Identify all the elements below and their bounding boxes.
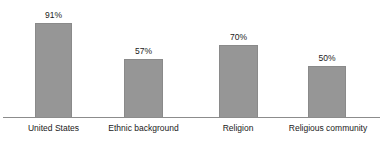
bar[interactable] xyxy=(35,23,72,118)
bar[interactable] xyxy=(219,45,258,118)
category-label-religion: Religion xyxy=(200,123,276,134)
category-label-ethnic-background: Ethnic background xyxy=(95,123,192,134)
bar[interactable] xyxy=(124,59,163,118)
bar-value-label: 50% xyxy=(318,53,335,63)
bar-group-0[interactable]: 91% xyxy=(35,23,72,118)
bar-value-label: 57% xyxy=(135,46,152,56)
plot-area: 91% 57% 70% 50% xyxy=(0,0,385,118)
bar[interactable] xyxy=(308,66,346,118)
category-label-religious-community: Religious community xyxy=(273,123,383,134)
bar-chart: 91% 57% 70% 50% United States Ethnic bac… xyxy=(0,0,385,142)
bar-group-1[interactable]: 57% xyxy=(124,59,163,118)
bar-group-3[interactable]: 50% xyxy=(308,66,346,118)
bar-group-2[interactable]: 70% xyxy=(219,45,258,118)
x-axis-line xyxy=(3,117,380,118)
category-label-united-states: United States xyxy=(13,123,94,134)
bar-value-label: 91% xyxy=(45,10,62,20)
bar-value-label: 70% xyxy=(230,32,247,42)
